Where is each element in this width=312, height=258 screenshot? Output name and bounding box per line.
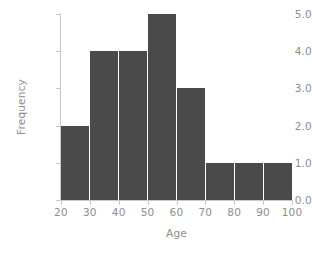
histogram-bar [205,163,235,200]
y-tick-label: 5.0 [260,9,312,20]
histogram-bar [147,14,177,200]
x-tick-mark [148,201,149,205]
y-tick-label: 2.0 [260,120,312,131]
x-axis-title: Age [61,228,292,239]
y-tick-mark [56,14,60,15]
histogram-bar [176,88,206,200]
histogram-bar [118,51,148,200]
y-tick-label: 4.0 [260,46,312,57]
plot-area [61,14,292,200]
histogram-figure: 0.01.02.03.04.05.0 2030405060708090100 F… [0,0,312,258]
x-tick-mark [263,201,264,205]
histogram-bar [61,126,90,200]
y-axis-title: Frequency [14,14,28,200]
bar-series [61,14,292,200]
histogram-bar [89,51,119,200]
y-tick-mark [56,126,60,127]
y-tick-mark [56,88,60,89]
y-tick-mark [56,200,60,201]
x-tick-mark [61,201,62,205]
y-tick-label: 0.0 [260,195,312,206]
x-tick-mark [205,201,206,205]
y-tick-mark [56,51,60,52]
y-tick-label: 3.0 [260,83,312,94]
x-tick-mark [119,201,120,205]
y-tick-label: 1.0 [260,158,312,169]
x-tick-mark [177,201,178,205]
y-tick-mark [56,163,60,164]
x-tick-mark [90,201,91,205]
y-axis-spine [60,13,61,201]
x-tick-mark [292,201,293,205]
x-tick-label: 100 [272,207,312,218]
x-tick-mark [234,201,235,205]
